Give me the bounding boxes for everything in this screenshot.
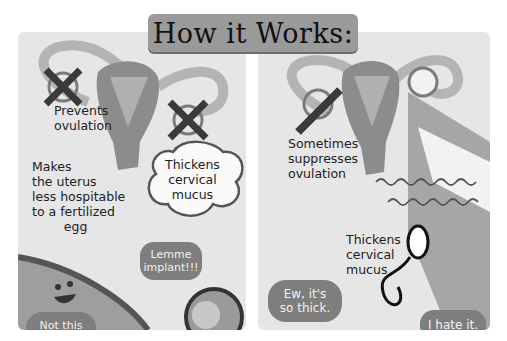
speech-bubble-egg: Lemme implant!!!: [140, 242, 202, 280]
label-prevents-ovulation: Prevents ovulation: [54, 103, 112, 133]
title-banner: How it Works:: [148, 14, 358, 52]
label-thickens-mucus: Thickens cervical mucus: [346, 232, 401, 277]
label-uterus-hospitable: Makes the uterus less hospitable to a fe…: [32, 159, 125, 234]
face-eye: [67, 281, 73, 287]
vaginal-canal: [408, 92, 490, 330]
egg-cells: [192, 301, 220, 329]
right-panel: Sometimes suppresses ovulation Thickens …: [258, 32, 490, 330]
speech-bubble-other: I hate it.: [420, 310, 486, 330]
label-suppresses-ovulation: Sometimes suppresses ovulation: [288, 136, 358, 181]
thought-mucus-text: Thickens cervical mucus: [165, 157, 220, 202]
ovary-right: [409, 68, 437, 96]
speech-bubble-sperm: Ew, it's so thick.: [268, 280, 342, 322]
x-mark-left: [46, 70, 80, 104]
page-title: How it Works:: [153, 18, 353, 49]
sperm-head: [408, 226, 428, 258]
left-panel: Prevents ovulation Makes the uterus less…: [18, 32, 246, 330]
speech-bubble-uterus: Not this time, buddy!: [26, 312, 96, 330]
face-eye: [55, 284, 61, 290]
